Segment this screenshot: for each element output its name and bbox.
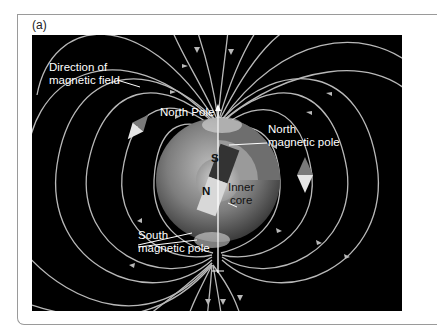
panel-label: (a): [32, 18, 47, 32]
label-line: core: [228, 194, 254, 207]
label-inner-core: Inner core: [228, 181, 254, 207]
label-north-magnetic-pole: North magnetic pole: [268, 123, 340, 149]
label-south-magnetic-pole: South magnetic pole: [138, 229, 210, 255]
label-line: magnetic field: [49, 74, 120, 87]
label-line: magnetic pole: [268, 136, 340, 149]
label-north-pole: North Pole: [160, 106, 214, 119]
magnetic-field-diagram: Direction of magnetic field North Pole N…: [32, 35, 402, 311]
magnet-north-label: N: [202, 185, 210, 198]
label-line: North: [268, 123, 340, 136]
label-direction-of-field: Direction of magnetic field: [49, 61, 120, 87]
compass-needle-icon: [297, 157, 313, 193]
label-line: Inner: [228, 181, 254, 194]
magnet-south-label: S: [211, 152, 219, 165]
label-line: South: [138, 229, 210, 242]
label-line: magnetic pole: [138, 242, 210, 255]
label-line: Direction of: [49, 61, 120, 74]
